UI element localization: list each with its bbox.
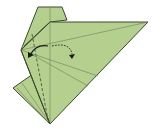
- origami-diagram: [0, 0, 158, 138]
